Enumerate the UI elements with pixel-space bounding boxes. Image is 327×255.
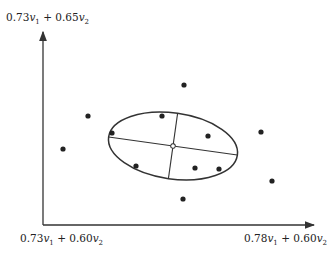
scatter-diagram xyxy=(0,0,327,255)
data-point xyxy=(269,178,274,183)
data-point xyxy=(133,163,138,168)
data-point xyxy=(109,130,114,135)
center-marker xyxy=(170,143,175,148)
data-points xyxy=(60,82,274,201)
y-axis-label: 0.73v1 + 0.65v2 xyxy=(6,11,89,26)
data-point xyxy=(60,146,65,151)
data-point xyxy=(258,129,263,134)
confidence-ellipse xyxy=(104,104,242,187)
data-point xyxy=(181,82,186,87)
data-point xyxy=(159,113,164,118)
data-point xyxy=(205,133,210,138)
data-point xyxy=(180,196,185,201)
data-point xyxy=(216,166,221,171)
data-point xyxy=(85,113,90,118)
data-point xyxy=(192,165,197,170)
x-axis-label: 0.78v1 + 0.60v2 xyxy=(244,232,327,247)
origin-label: 0.73v1 + 0.60v2 xyxy=(20,232,103,247)
